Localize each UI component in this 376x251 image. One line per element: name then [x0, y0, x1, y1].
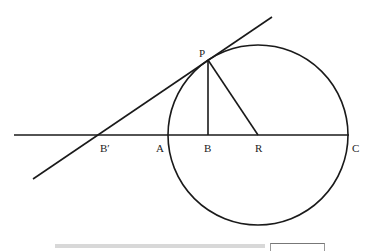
segment-pr: [208, 60, 258, 135]
label-b: B: [204, 142, 211, 154]
label-p: P: [199, 47, 205, 59]
label-a: A: [156, 142, 164, 154]
label-r: R: [255, 142, 263, 154]
caption-box: [270, 243, 325, 251]
label-b-prime: B′: [100, 142, 110, 154]
label-c: C: [352, 142, 359, 154]
caption-text-faded: [55, 244, 265, 248]
tangent-line: [33, 17, 272, 179]
